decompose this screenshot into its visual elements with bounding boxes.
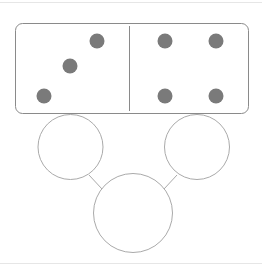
circle-top-right [165, 115, 230, 180]
circle-tree [38, 115, 230, 253]
circle-top-left [38, 115, 103, 180]
diagram-canvas [0, 0, 262, 270]
domino-tile [16, 24, 249, 114]
connector-left [89, 175, 102, 189]
circle-bottom [94, 174, 173, 253]
connector-right [164, 175, 177, 189]
